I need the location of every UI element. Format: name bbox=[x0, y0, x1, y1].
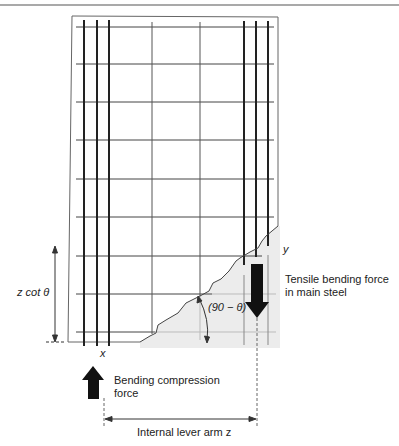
lever-arm-dimension bbox=[105, 417, 256, 422]
tensile-force-label: Tensile bending force in main steel bbox=[285, 273, 389, 299]
compression-force-arrow bbox=[82, 366, 104, 399]
compression-force-label-line1: Bending compression bbox=[114, 374, 220, 387]
tensile-force-label-line2: in main steel bbox=[285, 286, 389, 299]
z-cot-theta-label: z cot θ bbox=[17, 286, 49, 299]
point-y-label: y bbox=[283, 243, 289, 256]
vertical-links bbox=[152, 22, 200, 334]
left-main-bars bbox=[84, 20, 109, 346]
lever-arm-label: Internal lever arm z bbox=[137, 426, 231, 439]
angle-label: (90 − θ) bbox=[208, 301, 246, 314]
lever-arm-label-text: Internal lever arm z bbox=[137, 426, 231, 438]
right-main-bars bbox=[244, 21, 268, 265]
point-x-label: x bbox=[100, 347, 106, 360]
tensile-force-label-line1: Tensile bending force bbox=[285, 273, 389, 286]
compression-force-label-line2: force bbox=[114, 387, 220, 400]
compression-force-label: Bending compression force bbox=[114, 374, 220, 400]
